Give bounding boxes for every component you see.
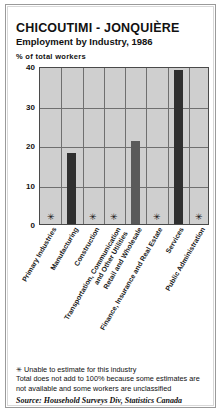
gridline-vertical <box>146 68 147 224</box>
y-axis-tick-40: 40 <box>26 63 35 72</box>
no-data-marker: ✳ <box>89 213 97 222</box>
chart-subtitle: Employment by Industry, 1986 <box>16 36 153 47</box>
y-axis-tick-10: 10 <box>26 181 35 190</box>
footnote-line-1: Unable to estimate for this industry <box>24 365 136 374</box>
gridline-horizontal <box>40 108 208 109</box>
gridline-vertical <box>125 68 126 224</box>
page-title: CHICOUTIMI - JONQUIÈRE <box>16 21 179 35</box>
bar-retail-and-wholesale <box>131 141 140 224</box>
gridline-vertical <box>189 68 190 224</box>
no-data-marker: ✳ <box>153 213 161 222</box>
plot-area: ✳✳✳✳✳ 010203040 <box>39 67 209 225</box>
source-line: Source: Household Surveys Div, Statistic… <box>16 396 212 405</box>
footnotes: ✳ Unable to estimate for this industry T… <box>16 365 212 405</box>
gridline-horizontal <box>40 147 208 148</box>
bar-services <box>174 70 183 224</box>
y-axis-tick-30: 30 <box>26 102 35 111</box>
y-axis-tick-20: 20 <box>26 142 35 151</box>
gridline-vertical <box>168 68 169 224</box>
no-data-marker: ✳ <box>47 213 55 222</box>
gridline-vertical <box>83 68 84 224</box>
no-data-marker: ✳ <box>195 213 203 222</box>
bar-manufacturing <box>67 153 76 224</box>
asterisk-icon: ✳ <box>16 365 22 374</box>
footnote-line-2: Total does not add to 100% because some … <box>16 374 212 383</box>
footnote-asterisk: ✳ Unable to estimate for this industry <box>16 365 212 374</box>
chart-card: CHICOUTIMI - JONQUIÈRE Employment by Ind… <box>5 4 216 408</box>
gridline-vertical <box>104 68 105 224</box>
gridline-vertical <box>61 68 62 224</box>
footnote-line-3: not available and some workers are uncla… <box>16 384 212 393</box>
gridline-horizontal <box>40 187 208 188</box>
y-axis-label: % of total workers <box>16 52 86 61</box>
plot-background: ✳✳✳✳✳ <box>39 67 209 225</box>
no-data-marker: ✳ <box>110 213 118 222</box>
y-axis-tick-0: 0 <box>31 221 35 230</box>
